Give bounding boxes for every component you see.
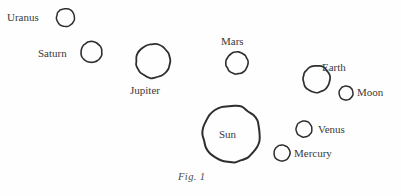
circle-moon (339, 86, 353, 100)
label-earth: Earth (322, 61, 346, 73)
circle-jupiter (136, 44, 170, 78)
label-sun: Sun (219, 128, 236, 140)
label-saturn: Saturn (38, 47, 67, 59)
circle-uranus (56, 9, 74, 27)
label-uranus: Uranus (7, 11, 39, 23)
orbit-circles-layer (0, 0, 401, 196)
circle-saturn (81, 41, 102, 62)
label-mars: Mars (221, 35, 244, 47)
circle-mercury (274, 145, 290, 161)
circle-mars (226, 52, 248, 74)
solar-system-figure: UranusSaturnJupiterMarsEarthMoonSunVenus… (0, 0, 401, 196)
circle-venus (296, 121, 312, 137)
figure-caption: Fig. 1 (178, 171, 205, 183)
label-mercury: Mercury (294, 147, 332, 159)
label-jupiter: Jupiter (130, 84, 160, 96)
label-venus: Venus (318, 123, 345, 135)
label-moon: Moon (357, 86, 383, 98)
